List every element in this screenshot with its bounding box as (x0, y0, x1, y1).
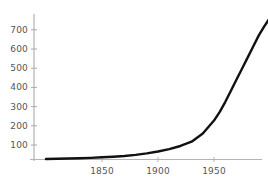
chart-container: 100 200 300 400 500 600 700 1850 1900 19… (0, 0, 268, 185)
data-series-line (46, 18, 268, 159)
y-tick-label-700: 700 (6, 25, 28, 34)
y-tick-label-300: 300 (6, 102, 28, 111)
plot-area (0, 0, 268, 185)
x-tick-label-1850: 1850 (90, 167, 114, 176)
y-tick-label-600: 600 (6, 45, 28, 54)
x-tick-label-1900: 1900 (146, 167, 170, 176)
y-tick-label-200: 200 (6, 121, 28, 130)
y-tick-label-100: 100 (6, 141, 28, 150)
y-tick-label-400: 400 (6, 83, 28, 92)
y-tick-label-500: 500 (6, 64, 28, 73)
x-tick-label-1950: 1950 (202, 167, 226, 176)
